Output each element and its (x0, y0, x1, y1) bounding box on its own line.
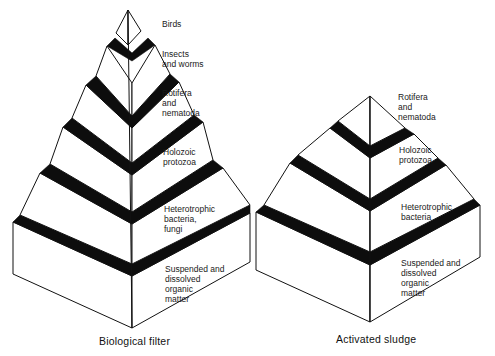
label-heterotrophic-bacteria-fungi: Heterotrophic bacteria, fungi (164, 204, 215, 234)
label-suspended-organic-matter-right: Suspended and dissolved organic matter (401, 258, 461, 298)
label-suspended-organic-matter-left: Suspended and dissolved organic matter (165, 264, 225, 304)
caption-biological-filter: Biological filter (99, 335, 170, 347)
diagram-canvas: Birds Insects and worms Rotifera and nem… (0, 0, 495, 356)
label-birds: Birds (162, 19, 181, 29)
pyramids-graphic (0, 0, 495, 356)
label-rotifera-nematoda-right: Rotifera and nematoda (398, 92, 436, 122)
label-rotifera-nematoda-left: Rotifera and nematoda (162, 88, 200, 118)
label-holozoic-protozoa-left: Holozoic protozoa (163, 147, 196, 167)
label-insects-and-worms: Insects and worms (162, 49, 204, 69)
label-holozoic-protozoa-right: Holozoic protozoa (399, 145, 432, 165)
caption-activated-sludge: Activated sludge (336, 333, 416, 345)
label-heterotrophic-bacteria-right: Heterotrophic bacteria (401, 202, 452, 222)
